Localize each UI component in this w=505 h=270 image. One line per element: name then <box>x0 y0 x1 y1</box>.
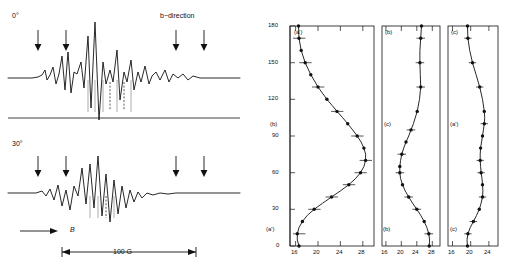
data-points-panel-c <box>466 24 486 247</box>
panel-a-label-top: (a') <box>294 29 302 35</box>
error-bars-panel-c <box>464 38 488 234</box>
error-bars-panel-b <box>396 38 434 234</box>
axis-annotation-b-mid: (b) <box>270 121 277 127</box>
x-tick-label-b-24: 24 <box>412 249 419 255</box>
angular-dependence-plots <box>252 0 505 270</box>
x-tick-label-c-16: 16 <box>448 249 455 255</box>
y-tick-label-90: 90 <box>272 132 279 138</box>
panel-b-annotation-bottom: (b) <box>383 226 390 232</box>
panel-b-frame <box>382 26 440 246</box>
field-direction-arrow <box>20 228 58 234</box>
x-tick-label-b-16: 16 <box>381 249 388 255</box>
panel-c-label-top: (c) <box>451 29 458 35</box>
figure-root: 0° b−direction <box>0 0 505 270</box>
panel-c-annotation-mid: (a') <box>450 121 458 127</box>
y-tick-label-180: 180 <box>268 22 278 28</box>
marker-arrow-group-bottom <box>35 156 208 177</box>
esr-spectra-block: 0° b−direction <box>0 0 250 270</box>
panel-c-frame <box>448 26 498 246</box>
angular-dependence-block: 180 150 120 90 60 30 0 16 20 24 28 16 20… <box>252 0 505 270</box>
axis-annotation-a-bottom: (a') <box>266 226 274 232</box>
y-tick-label-120: 120 <box>268 95 278 101</box>
x-tick-label-a-24: 24 <box>336 249 343 255</box>
curve-panel-b <box>400 26 430 246</box>
x-tick-label-c-20: 20 <box>466 249 473 255</box>
esr-trace-30deg <box>8 156 240 222</box>
y-tick-label-30: 30 <box>272 205 279 211</box>
esr-spectrum-0deg-plot <box>0 8 250 140</box>
x-tick-label-a-16: 16 <box>291 249 298 255</box>
panel-b-label-top: (b) <box>385 29 392 35</box>
x-tick-label-a-20: 20 <box>313 249 320 255</box>
y-axis <box>290 26 295 246</box>
marker-arrow-group-top <box>35 30 208 51</box>
esr-spectrum-30deg-plot <box>0 138 250 248</box>
y-tick-label-150: 150 <box>268 59 278 65</box>
panel-c-annotation-bottom: (c) <box>450 226 457 232</box>
y-tick-label-0: 0 <box>276 242 279 248</box>
scale-bar-label: 100 G <box>113 248 132 255</box>
data-points-panel-b <box>398 24 431 247</box>
y-tick-label-60: 60 <box>272 169 279 175</box>
x-tick-label-c-24: 24 <box>484 249 491 255</box>
hyperfine-stick-marks-top <box>88 80 131 112</box>
x-tick-label-b-20: 20 <box>397 249 404 255</box>
panel-b-annotation-mid: (c) <box>384 121 391 127</box>
field-axis-label: B <box>70 226 75 233</box>
error-bars-panel-a <box>293 38 372 234</box>
x-tick-label-b-28: 28 <box>428 249 435 255</box>
x-tick-label-a-28: 28 <box>358 249 365 255</box>
